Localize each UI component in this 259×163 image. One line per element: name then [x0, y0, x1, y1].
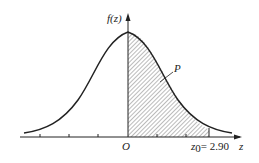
normal-distribution-diagram: f(z) z O P z0= 2.90 — [0, 0, 259, 163]
origin-label: O — [122, 140, 130, 152]
shaded-region-p — [128, 32, 215, 137]
region-label: P — [173, 62, 181, 74]
x-axis-arrow-icon — [234, 135, 242, 140]
z0-label: z0= 2.90 — [190, 140, 229, 154]
y-axis-arrow-icon — [126, 13, 131, 21]
x-axis-label: z — [238, 140, 244, 152]
y-axis-label: f(z) — [107, 12, 122, 25]
